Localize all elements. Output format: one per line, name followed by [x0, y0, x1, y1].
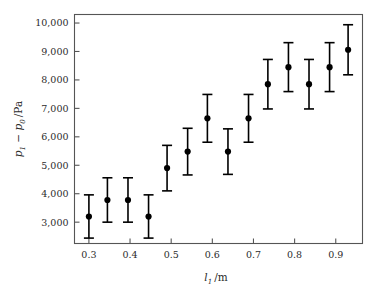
- x-tick-label-0.3: 0.3: [81, 249, 96, 260]
- data-marker: [306, 81, 312, 87]
- chart-figure: 0.30.40.50.60.70.80.9 3,0004,0005,0006,0…: [0, 0, 381, 291]
- y-tick-label-4,000: 4,000: [41, 188, 68, 199]
- data-marker: [185, 149, 191, 155]
- y-tick-label-8,000: 8,000: [41, 74, 68, 85]
- data-marker: [204, 115, 210, 121]
- x-tick-label-0.5: 0.5: [164, 249, 179, 260]
- y-tick-label-9,000: 9,000: [41, 46, 68, 57]
- plot-background: [0, 0, 381, 291]
- y-tick-label-10,000: 10,000: [35, 17, 68, 28]
- x-tick-label-0.9: 0.9: [328, 249, 343, 260]
- scatter-plot-with-error-bars: 0.30.40.50.60.70.80.9 3,0004,0005,0006,0…: [0, 0, 381, 291]
- data-marker: [104, 197, 110, 203]
- data-marker: [285, 64, 291, 70]
- x-tick-label-0.4: 0.4: [122, 249, 137, 260]
- y-tick-label-6,000: 6,000: [41, 131, 68, 142]
- data-marker: [145, 213, 151, 219]
- data-marker: [164, 165, 170, 171]
- data-marker: [265, 81, 271, 87]
- data-marker: [125, 197, 131, 203]
- data-marker: [326, 64, 332, 70]
- data-marker: [245, 115, 251, 121]
- data-marker: [225, 149, 231, 155]
- y-tick-label-7,000: 7,000: [41, 103, 68, 114]
- x-tick-label-0.8: 0.8: [287, 249, 302, 260]
- data-marker: [345, 47, 351, 53]
- y-tick-label-3,000: 3,000: [41, 217, 68, 228]
- y-tick-label-5,000: 5,000: [41, 160, 68, 171]
- x-tick-label-0.6: 0.6: [205, 249, 220, 260]
- data-marker: [86, 213, 92, 219]
- x-tick-label-0.7: 0.7: [246, 249, 261, 260]
